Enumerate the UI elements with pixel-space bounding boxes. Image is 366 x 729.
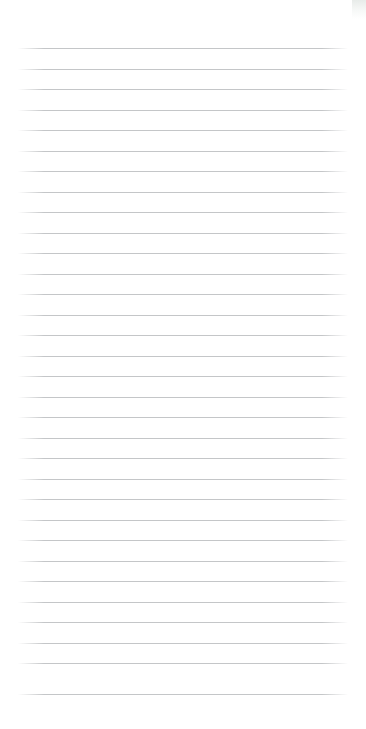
- rule-line: [18, 438, 348, 439]
- rule-line: [18, 622, 348, 623]
- rule-line: [18, 233, 348, 234]
- rule-line: [18, 602, 348, 603]
- rule-line: [18, 69, 348, 70]
- rule-line: [18, 581, 348, 582]
- rule-lines-group: [0, 0, 366, 729]
- rule-line: [18, 356, 348, 357]
- rule-line: [18, 48, 348, 49]
- rule-line: [18, 110, 348, 111]
- rule-line: [18, 479, 348, 480]
- rule-line: [18, 192, 348, 193]
- rule-line: [18, 89, 348, 90]
- rule-line: [18, 458, 348, 459]
- rule-line: [18, 315, 348, 316]
- rule-line: [18, 294, 348, 295]
- rule-line: [18, 417, 348, 418]
- rule-line: [18, 171, 348, 172]
- rule-line: [18, 561, 348, 562]
- rule-line: [18, 520, 348, 521]
- rule-line: [18, 540, 348, 541]
- rule-line: [18, 335, 348, 336]
- rule-line: [18, 499, 348, 500]
- rule-line: [18, 151, 348, 152]
- rule-line: [18, 274, 348, 275]
- rule-line: [18, 212, 348, 213]
- ruled-paper-page: [0, 0, 366, 729]
- rule-line: [18, 376, 348, 377]
- rule-line: [18, 397, 348, 398]
- rule-line: [18, 253, 348, 254]
- rule-line: [18, 130, 348, 131]
- rule-line: [18, 663, 348, 664]
- rule-line: [18, 694, 348, 695]
- rule-line: [18, 643, 348, 644]
